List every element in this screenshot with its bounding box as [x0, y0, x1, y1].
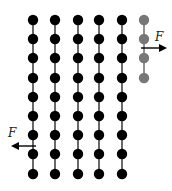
partial-chain-bead	[139, 15, 149, 25]
chain-1-bead	[28, 130, 38, 140]
chain-2-bead	[50, 111, 60, 121]
chain-3-bead	[73, 34, 83, 44]
chain-3-bead	[73, 130, 83, 140]
chain-5-bead	[117, 34, 127, 44]
chain-2-bead	[50, 92, 60, 102]
chain-4-bead	[94, 149, 104, 159]
chain-5-bead	[117, 92, 127, 102]
chain-3-bead	[73, 111, 83, 121]
chain-2-bead	[50, 149, 60, 159]
chain-4-bead	[94, 92, 104, 102]
partial-chain-bead	[139, 73, 149, 83]
chain-links	[33, 20, 144, 174]
chain-1-bead	[28, 53, 38, 63]
chain-1-bead	[28, 73, 38, 83]
chain-2-bead	[50, 73, 60, 83]
chain-4-bead	[94, 73, 104, 83]
chain-1-bead	[28, 34, 38, 44]
chain-3-bead	[73, 53, 83, 63]
chain-beads	[28, 15, 149, 179]
chain-5-bead	[117, 169, 127, 179]
chain-3-bead	[73, 92, 83, 102]
chain-1-bead	[28, 15, 38, 25]
chain-3-bead	[73, 169, 83, 179]
chain-2-bead	[50, 169, 60, 179]
chain-2-bead	[50, 53, 60, 63]
chain-3-bead	[73, 149, 83, 159]
chain-4-bead	[94, 34, 104, 44]
chain-2-bead	[50, 130, 60, 140]
chain-5-bead	[117, 73, 127, 83]
force-label-right: F	[155, 30, 163, 44]
lattice-diagram	[0, 0, 172, 191]
chain-4-bead	[94, 169, 104, 179]
force-label-left: F	[8, 126, 16, 140]
chain-3-bead	[73, 73, 83, 83]
chain-5-bead	[117, 111, 127, 121]
chain-4-bead	[94, 130, 104, 140]
chain-4-bead	[94, 111, 104, 121]
chain-4-bead	[94, 53, 104, 63]
chain-1-bead	[28, 92, 38, 102]
partial-chain-bead	[139, 53, 149, 63]
chain-1-bead	[28, 169, 38, 179]
chain-4-bead	[94, 15, 104, 25]
chain-5-bead	[117, 15, 127, 25]
chain-1-bead	[28, 111, 38, 121]
chain-5-bead	[117, 149, 127, 159]
chain-2-bead	[50, 15, 60, 25]
chain-5-bead	[117, 53, 127, 63]
chain-2-bead	[50, 34, 60, 44]
chain-1-bead	[28, 149, 38, 159]
chain-3-bead	[73, 15, 83, 25]
partial-chain-bead	[139, 34, 149, 44]
chain-5-bead	[117, 130, 127, 140]
